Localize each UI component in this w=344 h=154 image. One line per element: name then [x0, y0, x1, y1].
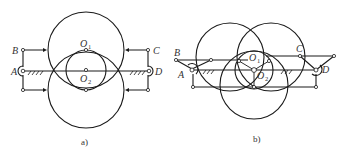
label-c: C: [153, 45, 160, 56]
label-o2: O: [257, 70, 264, 81]
joint-right-lower: [146, 88, 149, 91]
attach-upper-right: [125, 48, 129, 52]
joint-c: [298, 54, 301, 57]
label-o2-sub: 2: [265, 75, 268, 82]
pivot-d: [147, 69, 151, 73]
joint-c: [146, 48, 149, 51]
pivot-a: [190, 68, 194, 72]
label-o1-sub: 1: [257, 57, 260, 64]
joint-right-end: [332, 54, 335, 57]
pivot-d: [314, 68, 318, 72]
link-left-lower: [23, 75, 45, 90]
point-center: [84, 68, 87, 71]
joint-spoke-down: [252, 85, 255, 88]
caption-a: a): [81, 137, 88, 147]
joint-spoke-left: [237, 59, 240, 62]
caption-b: b): [253, 134, 261, 144]
right-large-circle: [237, 23, 305, 91]
attach-upper-left: [43, 48, 47, 52]
label-o2-sub: 2: [88, 78, 91, 85]
joint-left-lower: [191, 85, 194, 88]
label-c: C: [296, 43, 303, 54]
figure-b: B A C D O 1 O 2 b): [174, 23, 336, 144]
label-o1-sub: 1: [88, 43, 91, 50]
label-b: B: [12, 45, 18, 56]
ground-hatch-left: [203, 70, 214, 74]
point-o2: [84, 88, 87, 91]
link-c: [127, 50, 148, 67]
joint-spoke-right: [267, 59, 270, 62]
pivot-a: [21, 69, 25, 73]
label-o1: O: [80, 38, 87, 49]
ground-hatch-left: [28, 71, 43, 75]
link-right-lower: [127, 75, 148, 90]
link-b: [23, 50, 45, 67]
joint-left-lower: [21, 88, 24, 91]
label-o2: O: [80, 73, 87, 84]
mechanism-diagram: B A C D O 1 O 2 a): [0, 0, 344, 154]
label-b: B: [174, 47, 180, 58]
ground-hatch-right: [130, 71, 145, 75]
link-c-d: [300, 56, 316, 70]
joint-b: [174, 58, 177, 61]
label-a: A: [10, 66, 18, 77]
attach-lower-right: [125, 88, 129, 92]
label-a: A: [177, 69, 185, 80]
joint-b: [21, 48, 24, 51]
label-d: D: [321, 64, 330, 75]
label-d: D: [154, 66, 163, 77]
point-center: [252, 68, 257, 73]
label-o1: O: [249, 52, 256, 63]
attach-lower-left: [43, 88, 47, 92]
joint-right-lower: [314, 85, 317, 88]
joint-left-upper: [209, 58, 212, 61]
figure-a: B A C D O 1 O 2 a): [10, 12, 163, 147]
